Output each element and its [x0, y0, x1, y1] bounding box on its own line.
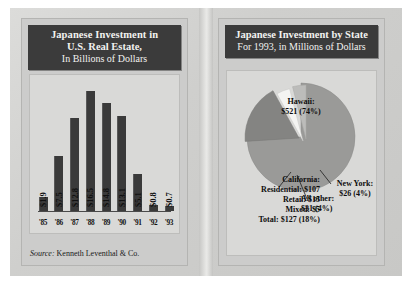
- pie-chart-plot-area: Hawaii: $521 (74%) California: Residenti…: [226, 70, 377, 256]
- bar-value-label: $12.8: [69, 188, 79, 207]
- bar-chart-plot-area: $1.9$7.5$12.8$16.5$14.8$13.1$5.1$0.8$0.7…: [29, 74, 180, 234]
- left-title-line2: U.S. Real Estate,: [28, 41, 181, 53]
- bar-value-label: $16.5: [85, 188, 95, 207]
- x-tick-label: '86: [54, 218, 64, 227]
- pie-label-hawaii: Hawaii: $521 (74%): [263, 97, 339, 117]
- bar-item: $0.7: [164, 91, 174, 211]
- x-tick-label: '91: [133, 218, 143, 227]
- allother-value: $31 (4%): [301, 204, 349, 214]
- california-total: Total: $127 (18%): [228, 215, 320, 225]
- x-tick-label: '88: [85, 218, 95, 227]
- source-prefix: Source:: [30, 249, 55, 258]
- panel-divider: [199, 8, 213, 276]
- source-text: Kenneth Leventhal & Co.: [57, 249, 140, 258]
- x-tick-label: '87: [70, 218, 80, 227]
- newyork-value: $26 (4%): [331, 189, 379, 199]
- bar-item: $7.5: [54, 91, 64, 211]
- right-title-line1: Japanese Investment by State: [225, 29, 378, 41]
- bar-value-label: $13.1: [116, 188, 126, 207]
- bar-item: $0.8: [148, 91, 158, 211]
- newyork-name: New York:: [331, 179, 379, 189]
- bar-item: $12.8: [70, 91, 80, 211]
- bar-item: $5.1: [133, 91, 143, 211]
- right-title-line2: For 1993, in Millions of Dollars: [225, 41, 378, 53]
- hawaii-value: $521 (74%): [263, 107, 339, 117]
- x-tick-label: '92: [148, 218, 158, 227]
- bar-item: $14.8: [101, 91, 111, 211]
- x-tick-label: '93: [164, 218, 174, 227]
- bar-value-label: $7.5: [53, 192, 63, 207]
- bar-chart-x-axis-labels: '85'86'87'88'89'90'91'92'93: [38, 218, 174, 227]
- left-panel-title: Japanese Investment in U.S. Real Estate,…: [28, 25, 181, 70]
- right-panel-title: Japanese Investment by State For 1993, i…: [225, 25, 378, 58]
- bar-value-label: $0.7: [164, 192, 174, 207]
- bar-value-label: $0.8: [148, 192, 158, 207]
- bar-item: $13.1: [117, 91, 127, 211]
- left-title-line3: In Billions of Dollars: [28, 53, 181, 65]
- bar-value-label: $1.9: [38, 192, 48, 207]
- bar-value-label: $5.1: [132, 192, 142, 207]
- figure-root: Japanese Investment in U.S. Real Estate,…: [0, 0, 412, 285]
- bar-item: $16.5: [85, 91, 95, 211]
- left-title-line1: Japanese Investment in: [28, 29, 181, 41]
- x-tick-label: '89: [101, 218, 111, 227]
- pie-label-new-york: New York: $26 (4%): [331, 179, 379, 199]
- bar-chart-baseline: [38, 211, 171, 212]
- bar-series: $1.9$7.5$12.8$16.5$14.8$13.1$5.1$0.8$0.7: [38, 91, 174, 211]
- hawaii-name: Hawaii:: [263, 97, 339, 107]
- bar-item: $1.9: [38, 91, 48, 211]
- bar-value-label: $14.8: [101, 188, 111, 207]
- x-tick-label: '85: [38, 218, 48, 227]
- left-panel: Japanese Investment in U.S. Real Estate,…: [21, 18, 188, 266]
- california-name: California:: [228, 175, 320, 185]
- source-note: Source: Kenneth Leventhal & Co.: [30, 249, 139, 258]
- x-tick-label: '90: [117, 218, 127, 227]
- right-panel: Japanese Investment by State For 1993, i…: [218, 18, 385, 266]
